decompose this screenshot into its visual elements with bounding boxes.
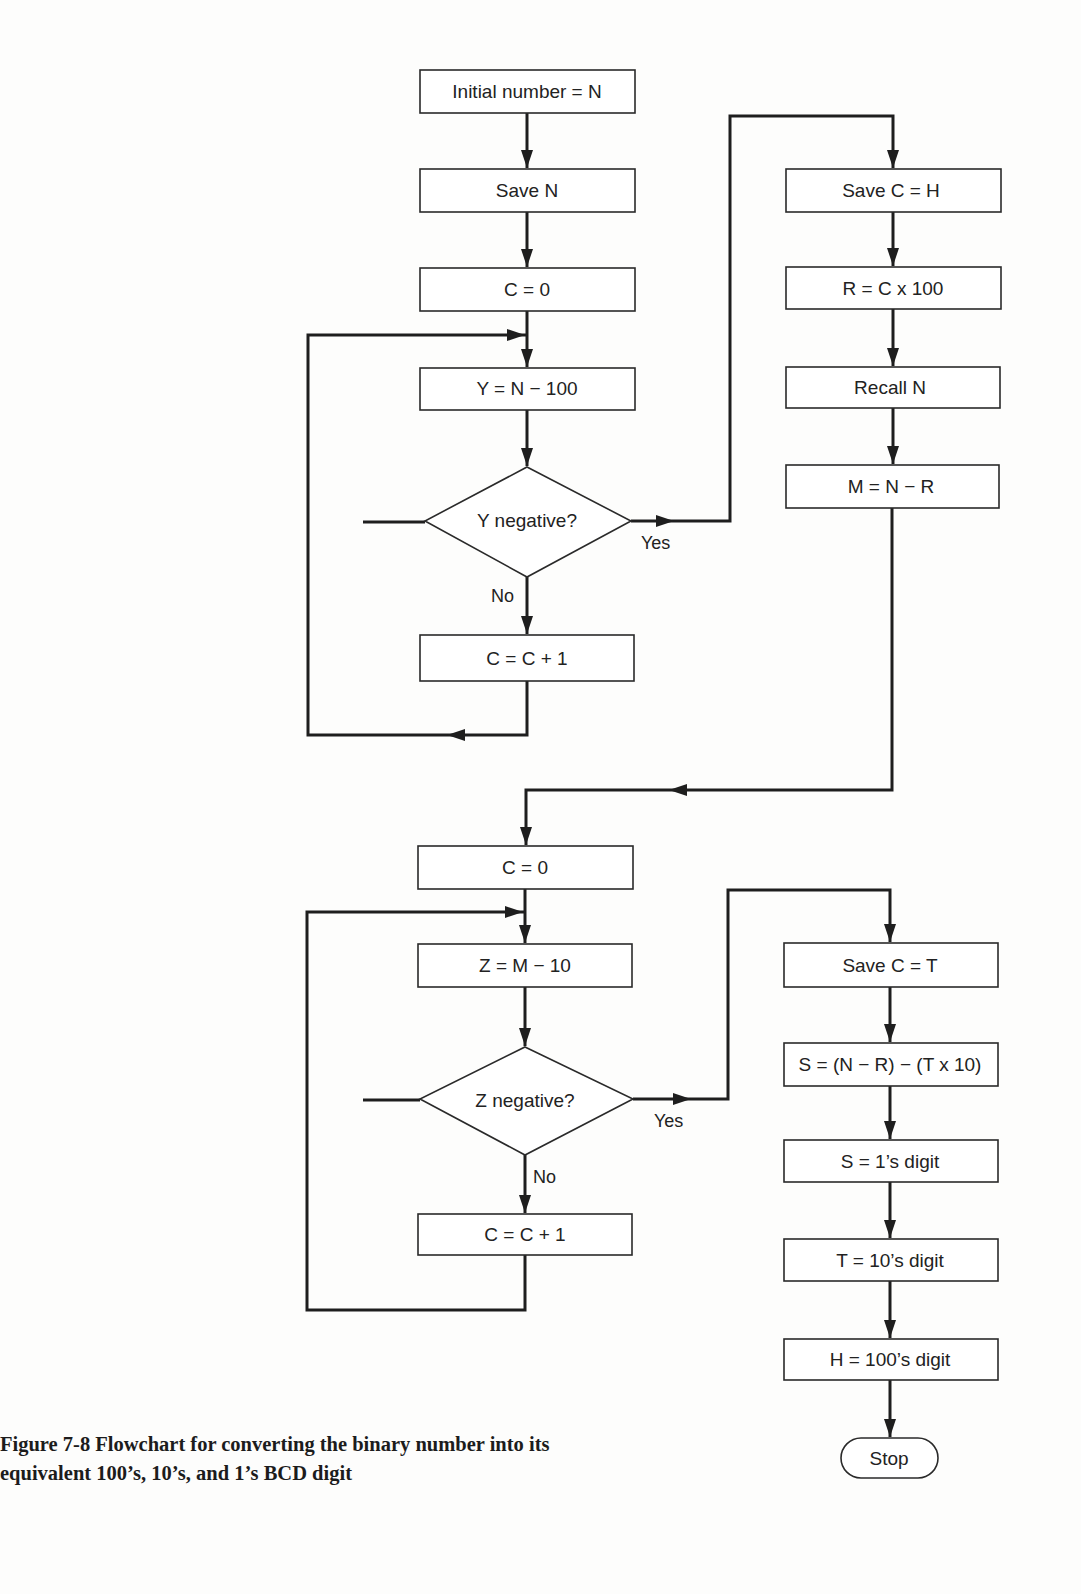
process-y-calc: Y = N − 100 bbox=[420, 368, 635, 410]
process-initial-number-label: Initial number = N bbox=[452, 81, 601, 102]
arrow-down-icon bbox=[887, 446, 899, 464]
process-hundreds-digit: H = 100’s digit bbox=[784, 1339, 998, 1380]
process-z-calc-label: Z = M − 10 bbox=[479, 955, 571, 976]
arrow-down-icon bbox=[884, 1320, 896, 1338]
flowchart: Initial number = N Save N C = 0 Y = N − … bbox=[0, 0, 1081, 1594]
process-increment-tens: C = C + 1 bbox=[418, 1214, 632, 1255]
process-tens-digit-label: T = 10’s digit bbox=[836, 1250, 944, 1271]
process-recall-n: Recall N bbox=[786, 367, 1000, 408]
process-increment-tens-label: C = C + 1 bbox=[484, 1224, 565, 1245]
arrow-right-icon bbox=[505, 906, 523, 918]
arrow-down-icon bbox=[519, 925, 531, 943]
arrow-down-icon bbox=[884, 1024, 896, 1042]
process-c-zero-tens: C = 0 bbox=[418, 846, 633, 889]
arrow-down-icon bbox=[884, 1220, 896, 1238]
process-save-t-label: Save C = T bbox=[842, 955, 938, 976]
process-s-calc: S = (N − R) − (T x 10) bbox=[784, 1043, 998, 1086]
process-save-h: Save C = H bbox=[786, 169, 1001, 212]
process-ones-digit-label: S = 1’s digit bbox=[841, 1151, 940, 1172]
process-c-zero-label: C = 0 bbox=[504, 279, 550, 300]
decision-z-negative: Z negative? bbox=[420, 1047, 633, 1155]
process-save-t: Save C = T bbox=[784, 943, 998, 987]
arrow-down-icon bbox=[887, 348, 899, 366]
process-tens-digit: T = 10’s digit bbox=[784, 1239, 998, 1281]
arrow-left-icon bbox=[447, 729, 465, 741]
terminal-stop-label: Stop bbox=[869, 1448, 908, 1469]
arrow-down-icon bbox=[521, 150, 533, 168]
arrow-right-icon bbox=[673, 1093, 691, 1105]
process-save-n: Save N bbox=[420, 169, 635, 212]
arrow-down-icon bbox=[519, 1028, 531, 1046]
arrow-down-icon bbox=[884, 1121, 896, 1139]
process-y-calc-label: Y = N − 100 bbox=[476, 378, 577, 399]
process-increment-label: C = C + 1 bbox=[486, 648, 567, 669]
arrow-down-icon bbox=[521, 448, 533, 466]
arrow-down-icon bbox=[887, 248, 899, 266]
decision-y-negative-label: Y negative? bbox=[477, 510, 577, 531]
arrow-right-icon bbox=[507, 329, 525, 341]
arrow-down-icon bbox=[884, 924, 896, 942]
process-r-calc-label: R = C x 100 bbox=[843, 278, 944, 299]
decision-z-no-label: No bbox=[533, 1167, 556, 1187]
process-c-zero-tens-label: C = 0 bbox=[502, 857, 548, 878]
arrow-down-icon bbox=[521, 249, 533, 267]
arrow-down-icon bbox=[519, 1195, 531, 1213]
decision-z-yes-label: Yes bbox=[654, 1111, 683, 1131]
process-recall-n-label: Recall N bbox=[854, 377, 926, 398]
process-save-n-label: Save N bbox=[496, 180, 558, 201]
process-z-calc: Z = M − 10 bbox=[418, 944, 632, 987]
process-initial-number: Initial number = N bbox=[420, 70, 635, 113]
process-r-calc: R = C x 100 bbox=[786, 267, 1001, 309]
arrow-down-icon bbox=[884, 1419, 896, 1437]
process-m-calc: M = N − R bbox=[786, 465, 999, 508]
process-save-h-label: Save C = H bbox=[842, 180, 940, 201]
arrow-left-icon bbox=[669, 784, 687, 796]
process-c-zero-hundreds: C = 0 bbox=[420, 268, 635, 311]
figure-caption-line-1: Figure 7-8 Flowchart for converting the … bbox=[0, 1430, 700, 1459]
process-increment-hundreds: C = C + 1 bbox=[420, 635, 634, 681]
terminal-stop: Stop bbox=[841, 1438, 938, 1478]
arrow-down-icon bbox=[887, 150, 899, 168]
arrow-down-icon bbox=[521, 349, 533, 367]
arrow-down-icon bbox=[520, 827, 532, 845]
arrow-right-icon bbox=[656, 515, 674, 527]
process-s-calc-label: S = (N − R) − (T x 10) bbox=[799, 1054, 982, 1075]
figure-caption: Figure 7-8 Flowchart for converting the … bbox=[0, 1430, 700, 1488]
arrow-down-icon bbox=[521, 616, 533, 634]
process-ones-digit: S = 1’s digit bbox=[784, 1140, 998, 1182]
figure-caption-line-2: equivalent 100’s, 10’s, and 1’s BCD digi… bbox=[0, 1459, 700, 1488]
decision-y-no-label: No bbox=[491, 586, 514, 606]
decision-z-negative-label: Z negative? bbox=[475, 1090, 574, 1111]
decision-y-negative: Y negative? bbox=[425, 467, 631, 577]
process-hundreds-digit-label: H = 100’s digit bbox=[830, 1349, 951, 1370]
decision-y-yes-label: Yes bbox=[641, 533, 670, 553]
process-m-calc-label: M = N − R bbox=[848, 476, 935, 497]
